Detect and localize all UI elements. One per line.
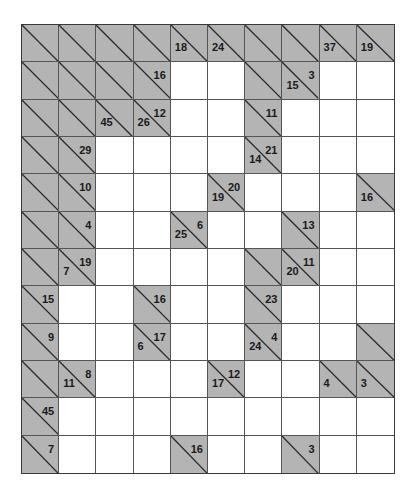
entry-cell[interactable] bbox=[96, 361, 133, 398]
entry-cell[interactable] bbox=[320, 174, 357, 211]
entry-cell[interactable] bbox=[245, 212, 282, 249]
entry-cell[interactable] bbox=[96, 212, 133, 249]
entry-cell[interactable] bbox=[134, 174, 171, 211]
blank-block-cell bbox=[245, 25, 282, 62]
entry-cell[interactable] bbox=[357, 436, 394, 473]
entry-cell[interactable] bbox=[171, 100, 208, 137]
diagonal-divider-icon bbox=[245, 25, 281, 61]
entry-cell[interactable] bbox=[208, 286, 245, 323]
entry-cell[interactable] bbox=[357, 100, 394, 137]
across-sum-clue: 29 bbox=[79, 145, 91, 156]
entry-cell[interactable] bbox=[320, 100, 357, 137]
entry-cell[interactable] bbox=[134, 249, 171, 286]
entry-cell[interactable] bbox=[320, 212, 357, 249]
across-sum-clue: 9 bbox=[48, 332, 54, 343]
clue-cell: 45 bbox=[96, 100, 133, 137]
across-sum-clue: 10 bbox=[79, 182, 91, 193]
clue-cell: 18 bbox=[171, 25, 208, 62]
entry-cell[interactable] bbox=[208, 212, 245, 249]
across-sum-clue: 11 bbox=[266, 108, 278, 119]
entry-cell[interactable] bbox=[282, 398, 319, 435]
down-sum-clue: 24 bbox=[249, 341, 261, 352]
entry-cell[interactable] bbox=[282, 100, 319, 137]
entry-cell[interactable] bbox=[96, 398, 133, 435]
entry-cell[interactable] bbox=[96, 137, 133, 174]
across-sum-clue: 3 bbox=[308, 444, 314, 455]
entry-cell[interactable] bbox=[208, 100, 245, 137]
entry-cell[interactable] bbox=[171, 324, 208, 361]
entry-cell[interactable] bbox=[171, 286, 208, 323]
entry-cell[interactable] bbox=[320, 436, 357, 473]
entry-cell[interactable] bbox=[282, 361, 319, 398]
entry-cell[interactable] bbox=[357, 137, 394, 174]
diagonal-divider-icon bbox=[96, 25, 132, 61]
entry-cell[interactable] bbox=[357, 286, 394, 323]
entry-cell[interactable] bbox=[134, 398, 171, 435]
entry-cell[interactable] bbox=[208, 249, 245, 286]
entry-cell[interactable] bbox=[96, 436, 133, 473]
entry-cell[interactable] bbox=[171, 62, 208, 99]
entry-cell[interactable] bbox=[245, 436, 282, 473]
entry-cell[interactable] bbox=[96, 249, 133, 286]
across-sum-clue: 16 bbox=[154, 294, 166, 305]
entry-cell[interactable] bbox=[357, 249, 394, 286]
entry-cell[interactable] bbox=[282, 286, 319, 323]
entry-cell[interactable] bbox=[282, 137, 319, 174]
entry-cell[interactable] bbox=[208, 324, 245, 361]
across-sum-clue: 13 bbox=[302, 220, 314, 231]
entry-cell[interactable] bbox=[171, 398, 208, 435]
entry-cell[interactable] bbox=[357, 212, 394, 249]
blank-block-cell bbox=[59, 62, 96, 99]
kakuro-board: 1824371916315451226112921141020191646251… bbox=[21, 24, 395, 474]
entry-cell[interactable] bbox=[96, 286, 133, 323]
entry-cell[interactable] bbox=[320, 62, 357, 99]
entry-cell[interactable] bbox=[245, 361, 282, 398]
diagonal-divider-icon bbox=[22, 361, 58, 397]
entry-cell[interactable] bbox=[245, 398, 282, 435]
entry-cell[interactable] bbox=[357, 398, 394, 435]
entry-cell[interactable] bbox=[320, 137, 357, 174]
blank-block-cell bbox=[22, 137, 59, 174]
entry-cell[interactable] bbox=[320, 249, 357, 286]
entry-cell[interactable] bbox=[96, 174, 133, 211]
diagonal-divider-icon bbox=[357, 324, 394, 360]
entry-cell[interactable] bbox=[134, 137, 171, 174]
entry-cell[interactable] bbox=[208, 62, 245, 99]
entry-cell[interactable] bbox=[282, 324, 319, 361]
entry-cell[interactable] bbox=[171, 174, 208, 211]
across-sum-clue: 4 bbox=[271, 332, 277, 343]
entry-cell[interactable] bbox=[59, 398, 96, 435]
diagonal-divider-icon bbox=[22, 25, 58, 61]
entry-cell[interactable] bbox=[134, 361, 171, 398]
blank-block-cell bbox=[357, 324, 394, 361]
entry-cell[interactable] bbox=[282, 174, 319, 211]
entry-cell[interactable] bbox=[59, 436, 96, 473]
entry-cell[interactable] bbox=[134, 436, 171, 473]
clue-cell: 29 bbox=[59, 137, 96, 174]
entry-cell[interactable] bbox=[320, 398, 357, 435]
down-sum-clue: 16 bbox=[361, 192, 373, 203]
entry-cell[interactable] bbox=[96, 324, 133, 361]
entry-cell[interactable] bbox=[320, 286, 357, 323]
down-sum-clue: 45 bbox=[100, 117, 112, 128]
diagonal-divider-icon bbox=[22, 174, 58, 210]
down-sum-clue: 24 bbox=[212, 42, 224, 53]
entry-cell[interactable] bbox=[245, 174, 282, 211]
across-sum-clue: 6 bbox=[197, 220, 203, 231]
across-sum-clue: 3 bbox=[308, 70, 314, 81]
clue-cell: 4 bbox=[59, 212, 96, 249]
entry-cell[interactable] bbox=[59, 324, 96, 361]
entry-cell[interactable] bbox=[59, 286, 96, 323]
entry-cell[interactable] bbox=[357, 62, 394, 99]
down-sum-clue: 15 bbox=[286, 80, 298, 91]
entry-cell[interactable] bbox=[208, 398, 245, 435]
entry-cell[interactable] bbox=[171, 361, 208, 398]
entry-cell[interactable] bbox=[320, 324, 357, 361]
across-sum-clue: 12 bbox=[228, 369, 240, 380]
entry-cell[interactable] bbox=[134, 212, 171, 249]
entry-cell[interactable] bbox=[171, 249, 208, 286]
entry-cell[interactable] bbox=[171, 137, 208, 174]
entry-cell[interactable] bbox=[208, 137, 245, 174]
entry-cell[interactable] bbox=[208, 436, 245, 473]
diagonal-divider-icon bbox=[59, 62, 95, 98]
